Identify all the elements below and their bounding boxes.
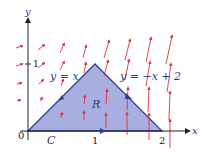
- line-label-right: y = −x + 2: [119, 70, 181, 83]
- vector-field-diagram: y x 0 1 1 2 y = x y = −x + 2 R C: [0, 0, 202, 161]
- line-label-left: y = x: [49, 70, 79, 83]
- y-axis-label: y: [24, 6, 31, 17]
- x-tick-1: 1: [92, 135, 98, 146]
- curve-label: C: [47, 134, 56, 147]
- x-axis-label: x: [192, 125, 198, 136]
- boundary-arrow-right: [125, 93, 132, 99]
- region-label: R: [91, 98, 100, 111]
- x-tick-2: 2: [159, 135, 165, 146]
- y-tick-1: 1: [33, 59, 39, 69]
- origin-label: 0: [18, 130, 24, 141]
